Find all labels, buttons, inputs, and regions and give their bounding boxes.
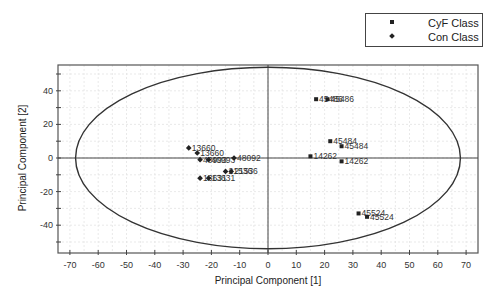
- svg-text:48092: 48092: [237, 153, 261, 163]
- svg-text:14262: 14262: [313, 151, 337, 161]
- svg-text:40993: 40993: [212, 155, 236, 165]
- svg-text:-60: -60: [92, 260, 105, 270]
- svg-text:-40: -40: [40, 220, 53, 230]
- svg-text:0: 0: [265, 260, 270, 270]
- svg-text:50: 50: [404, 260, 414, 270]
- square-marker-icon: [390, 20, 394, 24]
- svg-text:45486: 45486: [330, 94, 354, 104]
- svg-text:45484: 45484: [345, 141, 369, 151]
- legend-label: CyF Class: [428, 17, 479, 29]
- svg-text:-30: -30: [177, 260, 190, 270]
- x-axis-label: Principal Component [1]: [215, 275, 322, 286]
- svg-text:20: 20: [43, 119, 53, 129]
- svg-text:14262: 14262: [345, 156, 369, 166]
- svg-text:21536: 21536: [234, 166, 258, 176]
- svg-text:40: 40: [376, 260, 386, 270]
- legend-item-cyf: CyF Class: [366, 16, 482, 31]
- legend-label: Con Class: [428, 31, 479, 43]
- svg-text:-20: -20: [205, 260, 218, 270]
- svg-text:-70: -70: [63, 260, 76, 270]
- diamond-marker-icon: [389, 33, 395, 39]
- svg-text:-20: -20: [40, 187, 53, 197]
- svg-text:20: 20: [320, 260, 330, 270]
- svg-text:45524: 45524: [370, 212, 394, 222]
- svg-text:70: 70: [461, 260, 471, 270]
- svg-text:13631: 13631: [212, 173, 236, 183]
- svg-text:30: 30: [348, 260, 358, 270]
- svg-text:10: 10: [291, 260, 301, 270]
- svg-text:60: 60: [433, 260, 443, 270]
- legend: CyF Class Con Class: [365, 13, 483, 47]
- svg-text:40: 40: [43, 86, 53, 96]
- svg-text:0: 0: [48, 153, 53, 163]
- y-axis-label: Principal Component [2]: [17, 104, 28, 211]
- svg-text:-10: -10: [233, 260, 246, 270]
- legend-item-con: Con Class: [366, 30, 482, 45]
- svg-text:-50: -50: [120, 260, 133, 270]
- svg-text:-40: -40: [148, 260, 161, 270]
